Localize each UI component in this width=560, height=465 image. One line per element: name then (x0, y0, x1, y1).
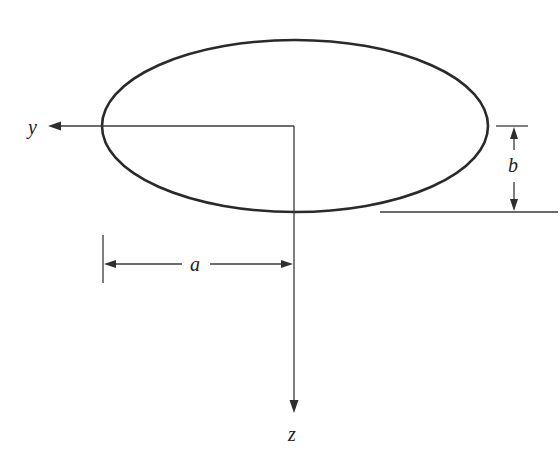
b-arrow-up-icon (510, 127, 518, 139)
dimension-a: a (103, 235, 293, 283)
a-label: a (190, 253, 200, 275)
z-axis-label: z (287, 423, 296, 445)
a-arrow-right-icon (281, 260, 293, 268)
z-axis-arrow-icon (290, 400, 299, 413)
y-axis-label: y (26, 116, 37, 139)
z-axis: z (287, 126, 299, 445)
b-arrow-down-icon (510, 199, 518, 211)
a-arrow-left-icon (104, 260, 116, 268)
y-axis: y (26, 116, 294, 139)
y-axis-arrow-icon (48, 122, 61, 131)
b-label: b (508, 154, 518, 176)
ellipse-diagram: y z b a (0, 0, 560, 465)
dimension-b: b (380, 126, 558, 212)
